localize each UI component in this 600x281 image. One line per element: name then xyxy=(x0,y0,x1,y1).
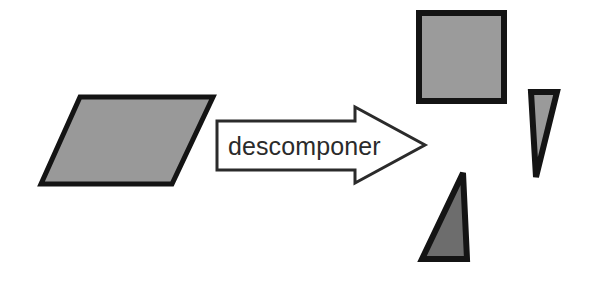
decomposition-diagram: descomponer xyxy=(0,0,600,281)
arrow-group: descomponer xyxy=(217,107,425,183)
figure-canvas: descomponer xyxy=(0,0,600,281)
triangle-bottom-shape xyxy=(422,173,467,259)
triangle-right-shape xyxy=(531,92,557,177)
parallelogram-shape xyxy=(41,97,213,184)
square-shape xyxy=(419,13,504,101)
arrow-label: descomponer xyxy=(228,132,381,160)
